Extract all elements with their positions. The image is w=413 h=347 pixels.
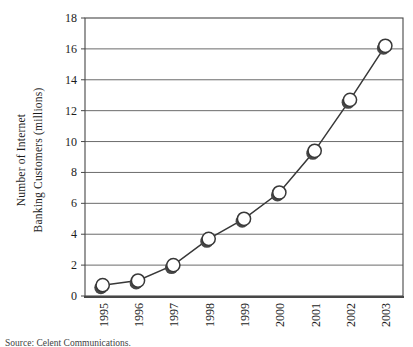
y-tick-label-16: 16 (65, 42, 77, 56)
x-tick-label-2002: 2002 (344, 303, 358, 327)
data-point-2002 (343, 93, 356, 106)
x-tick-label-2003: 2003 (379, 303, 393, 327)
y-tick-label-6: 6 (71, 196, 77, 210)
y-tick-label-8: 8 (71, 165, 77, 179)
y-axis-title-line-1: Number of Internet (15, 114, 27, 206)
y-axis-title-line-2: Banking Customers (millions) (32, 88, 44, 233)
y-tick-label-4: 4 (71, 227, 77, 241)
y-tick-label-2: 2 (71, 258, 77, 272)
data-point-1997 (167, 259, 180, 272)
y-tick-label-14: 14 (65, 73, 77, 87)
x-tick-label-1997: 1997 (167, 303, 181, 327)
x-tick-label-2000: 2000 (273, 303, 287, 327)
source-note: Source: Celent Communications. (5, 338, 131, 347)
x-tick-label-1995: 1995 (97, 303, 111, 327)
data-point-1995 (96, 279, 109, 292)
x-tick-label-1999: 1999 (238, 303, 252, 327)
plot-area (85, 18, 403, 296)
data-point-2000 (273, 186, 286, 199)
y-tick-label-10: 10 (65, 135, 77, 149)
x-tick-label-1998: 1998 (203, 303, 217, 327)
line-chart-canvas: 0246810121416181995199619971998199920002… (0, 0, 413, 347)
x-tick-label-1996: 1996 (132, 303, 146, 327)
data-point-2001 (308, 144, 321, 157)
y-tick-label-18: 18 (65, 11, 77, 25)
data-point-1999 (237, 212, 250, 225)
x-tick-label-2001: 2001 (309, 303, 323, 327)
internet-banking-chart-figure: 0246810121416181995199619971998199920002… (0, 0, 413, 347)
data-point-1996 (131, 274, 144, 287)
data-point-1998 (202, 232, 215, 245)
y-tick-label-0: 0 (71, 289, 77, 303)
data-point-2003 (379, 39, 392, 52)
y-tick-label-12: 12 (65, 104, 77, 118)
